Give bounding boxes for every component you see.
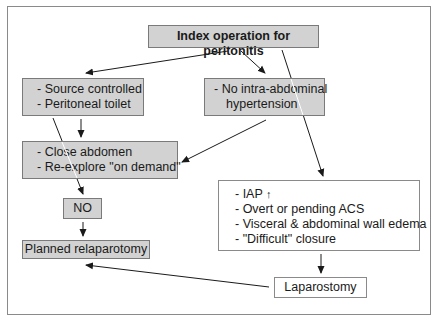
node-laparostomy-label: Laparostomy bbox=[284, 280, 356, 294]
node-iap-line-3: - Visceral & abdominal wall edema bbox=[235, 217, 419, 232]
up-arrow-icon: ↑ bbox=[266, 188, 272, 200]
node-iap-line-1-text: - IAP bbox=[235, 187, 263, 201]
node-no-label: NO bbox=[73, 201, 92, 215]
node-iap-criteria: - IAP ↑ - Overt or pending ACS - Viscera… bbox=[218, 180, 420, 251]
node-laparostomy: Laparostomy bbox=[274, 277, 367, 298]
node-iap-line-2: - Overt or pending ACS bbox=[235, 202, 419, 217]
node-iap-line-1: - IAP ↑ bbox=[235, 187, 419, 202]
node-iap-line-4: - "Difficult" closure bbox=[235, 232, 419, 247]
node-no: NO bbox=[63, 198, 102, 219]
erased-line-overlay-2 bbox=[0, 0, 437, 321]
node-planned-relaparotomy: Planned relaparotomy bbox=[22, 240, 150, 259]
node-planned-label: Planned relaparotomy bbox=[25, 242, 147, 256]
